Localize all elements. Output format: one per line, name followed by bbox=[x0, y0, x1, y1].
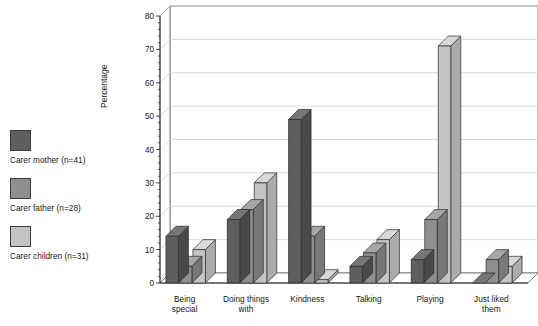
legend-swatch-carer-mother bbox=[10, 130, 31, 151]
x-tick-label: Talking bbox=[356, 294, 382, 304]
bar-3-series-1 bbox=[289, 109, 312, 283]
x-tick-label: Playing bbox=[416, 294, 444, 304]
legend-label-carer-children: Carer children (n=31) bbox=[10, 251, 130, 261]
y-tick-label: 50 bbox=[145, 112, 155, 121]
bar-chart: 01020304050607080BeingspecialDoing thing… bbox=[128, 4, 538, 326]
x-tick-label: Doing things bbox=[223, 294, 269, 304]
y-tick-label: 30 bbox=[145, 179, 155, 188]
x-tick-label: with bbox=[238, 304, 254, 314]
x-tick-label: them bbox=[482, 304, 501, 314]
y-tick-label: 0 bbox=[149, 279, 154, 288]
legend-label-carer-father: Carer father (n=28) bbox=[10, 203, 130, 213]
legend-swatch-carer-father bbox=[10, 178, 31, 199]
y-tick-label: 80 bbox=[145, 12, 155, 21]
y-tick-label: 70 bbox=[145, 45, 155, 54]
y-tick-label: 40 bbox=[145, 146, 155, 155]
x-tick-label: Kindness bbox=[290, 294, 324, 304]
legend-item-carer-father: Carer father (n=28) bbox=[10, 178, 130, 213]
x-tick-label: Just liked bbox=[474, 294, 509, 304]
bar-2-series-1 bbox=[227, 210, 250, 283]
y-tick-label: 20 bbox=[145, 212, 155, 221]
legend-swatch-carer-children bbox=[10, 226, 31, 247]
x-tick-label: Being bbox=[174, 294, 196, 304]
y-tick-label: 60 bbox=[145, 79, 155, 88]
bar-1-series-1 bbox=[166, 226, 189, 283]
legend-label-carer-mother: Carer mother (n=41) bbox=[10, 155, 130, 165]
y-tick-label: 10 bbox=[145, 246, 155, 255]
legend-item-carer-mother: Carer mother (n=41) bbox=[10, 130, 130, 165]
legend-item-carer-children: Carer children (n=31) bbox=[10, 226, 130, 261]
chart-canvas: 01020304050607080BeingspecialDoing thing… bbox=[128, 4, 538, 326]
x-tick-label: special bbox=[172, 304, 198, 314]
chart-legend: Carer mother (n=41) Carer father (n=28) … bbox=[10, 130, 130, 274]
y-axis-title: Percentage bbox=[99, 65, 109, 108]
